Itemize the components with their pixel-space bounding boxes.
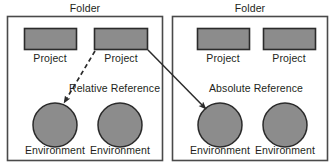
project-right-2-label: Project <box>272 52 305 64</box>
environment-right-2-label: Environment <box>255 144 315 156</box>
project-right-1-shape[interactable] <box>198 29 250 50</box>
folder-left-label: Folder <box>70 2 100 14</box>
environment-right-1-shape[interactable] <box>198 103 242 147</box>
project-right-2-shape[interactable] <box>264 29 316 50</box>
project-right-1-label: Project <box>206 52 239 64</box>
project-left-1-label: Project <box>33 52 66 64</box>
diagram-canvas: Folder Folder Project Project Project Pr… <box>0 0 334 168</box>
project-left-1-shape[interactable] <box>25 29 77 50</box>
project-left-2-label: Project <box>104 52 137 64</box>
environment-left-2-label: Environment <box>90 144 150 156</box>
environment-right-2-shape[interactable] <box>263 103 307 147</box>
environment-left-1-label: Environment <box>25 144 85 156</box>
environment-left-1-shape[interactable] <box>33 103 77 147</box>
relative-reference-arrow-line[interactable] <box>64 51 95 103</box>
environment-left-2-shape[interactable] <box>98 103 142 147</box>
environment-right-1-label: Environment <box>190 144 250 156</box>
folder-right-label: Folder <box>235 2 265 14</box>
project-left-2-shape[interactable] <box>95 29 148 50</box>
absolute-reference-label: Absolute Reference <box>209 82 303 94</box>
absolute-reference-arrow-line[interactable] <box>148 50 206 109</box>
relative-reference-label: Relative Reference <box>69 82 160 94</box>
